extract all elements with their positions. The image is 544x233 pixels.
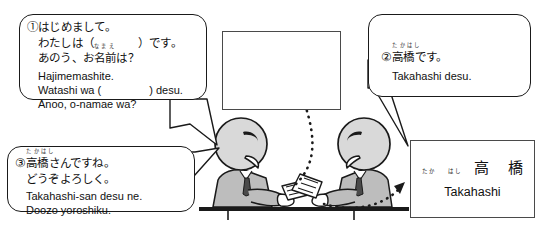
meishi-kanji-takahashi: 高 橋 (474, 159, 530, 177)
meishi-romaji-takahashi: Takahashi (444, 185, 500, 199)
bubble-1-jp-text-3b: は？ (116, 51, 138, 65)
bubble-1-jp-text-2b: ）です。 (138, 36, 182, 50)
bubble-2-furigana-takahashi: たかはし (392, 43, 414, 48)
bubble-1-jp-line-3: あのう、おなまえ名前は？ (27, 51, 199, 67)
speech-bubble-2: ②たかはし高橋です。 Takahashi desu. (368, 14, 531, 97)
bubble-2-kanji-takahashi: 高橋 (392, 50, 414, 64)
card-path-left-dotted (296, 108, 312, 184)
bubble-3-jp-line-2: どうぞよろしく。 (15, 172, 187, 188)
meishi-kanji-row: たか はし 高 橋 (415, 160, 529, 180)
bubble-2-romaji-line: Takahashi desu. (381, 69, 523, 83)
speech-bubble-1-content: ①はじめまして。 わたしは（）です。 あのう、おなまえ名前は？ Hajimema… (20, 15, 206, 115)
illustration-page: ①はじめまして。 わたしは（）です。 あのう、おなまえ名前は？ Hajimema… (0, 0, 544, 233)
speech-bubble-1: ①はじめまして。 わたしは（）です。 あのう、おなまえ名前は？ Hajimema… (19, 14, 207, 100)
bubble-1-ruby-namae: なまえ名前 (94, 51, 116, 67)
meishi-furigana-taka: たか (422, 168, 436, 174)
right-person (292, 118, 392, 207)
bubble-2-ruby-takahashi: たかはし高橋 (392, 50, 414, 66)
bubble-1-furigana-namae: なまえ (94, 44, 116, 49)
bubble-1-romaji-2a: Watashi wa ( (38, 84, 101, 96)
bubble-1-romaji-line-1: Hajimemashite. (27, 69, 199, 83)
meishi-name-card: たか はし 高 橋 Takahashi (410, 140, 535, 218)
bubble-2-jp-suffix: です。 (415, 50, 448, 64)
bubble-2-marker: ② (381, 50, 392, 64)
desk (199, 207, 409, 220)
bubble-1-jp-text-1: はじめまして。 (38, 20, 116, 34)
blank-name-card (222, 31, 341, 110)
bubble-3-jp-line-1: ③たかはし高橋さんですね。 (15, 156, 187, 172)
bubble-2-jp-line: ②たかはし高橋です。 (381, 50, 523, 66)
speech-bubble-3: ③たかはし高橋さんですね。 どうぞよろしく。 Takahashi-san des… (7, 146, 195, 212)
card-path-right-arrowhead (394, 182, 405, 194)
speech-bubble-2-content: ②たかはし高橋です。 Takahashi desu. (369, 45, 530, 87)
bubble-1-romaji-line-2: Watashi wa () desu. (27, 83, 199, 97)
bubble-3-romaji-line-1: Takahashi-san desu ne. (15, 189, 187, 203)
bubble-1-jp-line-1: ①はじめまして。 (27, 20, 199, 36)
bubble-1-jp-text-3a: あのう、お (38, 51, 94, 65)
bubble-3-ruby-takahashi: たかはし高橋 (26, 156, 48, 172)
bubble-1-romaji-2b: ) desu. (149, 84, 183, 96)
bubble-1-romaji-line-3: Anoo, o-namae wa? (27, 97, 199, 111)
bubble-3-romaji-line-2: Doozo yoroshiku. (15, 203, 187, 217)
bubble-1-marker: ① (27, 20, 38, 34)
speech-bubble-3-content: ③たかはし高橋さんですね。 どうぞよろしく。 Takahashi-san des… (8, 151, 194, 221)
bubble-3-marker: ③ (15, 156, 26, 170)
bubble-1-kanji-namae: 名前 (94, 51, 116, 65)
business-card-exchange-illustration (196, 108, 412, 230)
bubble-3-jp-suffix: さんですね。 (49, 156, 115, 170)
left-person (213, 118, 312, 207)
meishi-furigana-hashi: はし (448, 168, 462, 174)
bubble-3-kanji-takahashi: 高橋 (26, 156, 48, 170)
bubble-3-furigana-takahashi: たかはし (26, 149, 48, 154)
bubble-1-jp-text-2a: わたしは（ (38, 36, 94, 50)
